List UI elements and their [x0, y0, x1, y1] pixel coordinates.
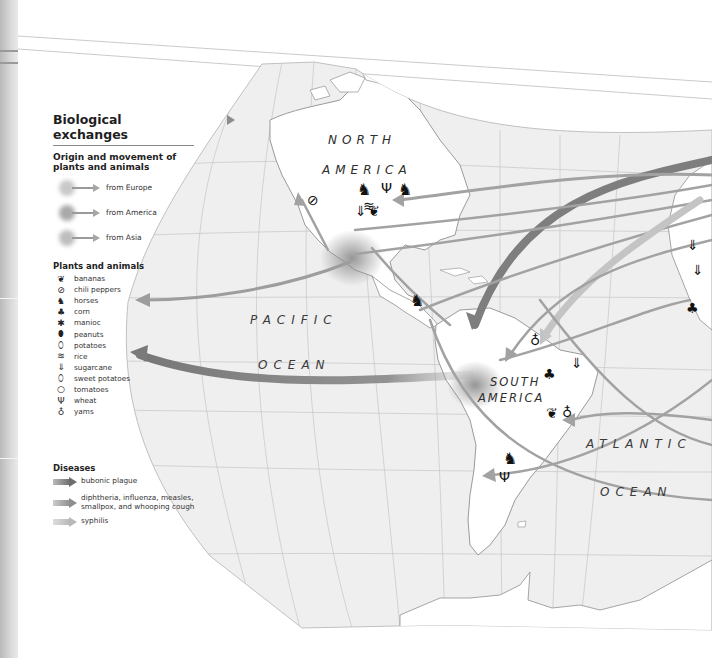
- disease-arrow-icon: [53, 478, 77, 486]
- yam-icon: ♁: [530, 333, 540, 347]
- horse-icon: ♞: [410, 294, 424, 308]
- rice-icon: ≋: [53, 351, 69, 361]
- legend-item: ⊘chili peppers: [53, 284, 130, 295]
- disease-entry-plague: bubonic plague: [53, 476, 137, 486]
- continent-label-north: NORTH: [328, 133, 396, 147]
- chili-pepper-icon: ⊘: [53, 285, 69, 295]
- ocean-label-pacific-ocean: OCEAN: [258, 358, 331, 372]
- origin-europe-entry: from Europe: [59, 175, 253, 200]
- legend-item: ⬮peanuts: [53, 328, 130, 339]
- wheat-icon: Ψ: [381, 181, 392, 195]
- wheat-icon: Ψ: [499, 470, 510, 484]
- arrow-icon: [72, 237, 94, 239]
- arrow-icon: [72, 187, 94, 189]
- yam-icon: ♁: [53, 407, 69, 417]
- horse-icon: ♞: [53, 296, 69, 306]
- legend-item: ○tomatoes: [53, 384, 130, 395]
- manioc-icon: ✱: [53, 318, 69, 328]
- horse-icon: ♞: [357, 183, 371, 197]
- legend-item: ⬯sweet potatoes: [53, 373, 130, 384]
- horse-icon: ♞: [503, 452, 517, 466]
- sugarcane-icon: ⇓: [692, 263, 704, 277]
- banana-icon: ❦: [546, 406, 558, 420]
- origin-heading: Origin and movement of plants and animal…: [53, 152, 183, 172]
- legend-item: ≋rice: [53, 351, 130, 362]
- legend-panel: Biological exchanges Origin and movement…: [53, 112, 253, 250]
- disease-entry-syphilis: syphilis: [53, 516, 108, 526]
- origin-label: from Asia: [106, 233, 142, 242]
- legend-item: ♣corn: [53, 306, 130, 317]
- legend-item: ♞horses: [53, 295, 130, 306]
- origin-label: from Europe: [106, 183, 152, 192]
- tomato-icon: ○: [53, 384, 69, 394]
- disease-arrow-icon: [53, 499, 77, 507]
- diseases-heading: Diseases: [53, 463, 95, 473]
- legend-item: ❦bananas: [53, 273, 130, 284]
- legend-item: ✱manioc: [53, 317, 130, 328]
- sugarcane-icon: ⇓: [687, 238, 699, 252]
- continent-label-south: SOUTH: [490, 375, 540, 389]
- continent-label-america: AMERICA: [322, 163, 412, 177]
- corn-icon: ♣: [686, 301, 699, 315]
- origin-blob-america: [320, 230, 384, 286]
- legend-item: ⬯potatoes: [53, 340, 130, 351]
- plants-animals-list: ❦bananas ⊘chili peppers ♞horses ♣corn ✱m…: [53, 273, 130, 417]
- triangle-pointer-icon: [227, 115, 235, 125]
- origin-asia-entry: from Asia: [59, 225, 253, 250]
- banana-icon: ❦: [53, 274, 69, 284]
- ocean-label-atlantic-ocean: OCEAN: [600, 485, 673, 499]
- peanut-icon: ⬮: [53, 329, 69, 339]
- rice-icon: ≋: [363, 199, 375, 213]
- potato-icon: ⬯: [53, 340, 69, 350]
- origin-label: from America: [106, 208, 157, 217]
- sweet-potato-icon: ⬯: [53, 373, 69, 383]
- corn-icon: ♣: [543, 367, 556, 381]
- horse-icon: ♞: [398, 183, 412, 197]
- legend-item: ⇓sugarcane: [53, 362, 130, 373]
- plants-animals-heading: Plants and animals: [53, 261, 144, 271]
- wheat-icon: Ψ: [53, 396, 69, 406]
- sugarcane-icon: ⇓: [571, 356, 583, 370]
- origin-america-entry: from America: [59, 200, 253, 225]
- continent-label-south-america: AMERICA: [478, 391, 544, 405]
- yam-icon: ♁: [562, 405, 572, 419]
- sugarcane-icon: ⇓: [53, 362, 69, 372]
- arrow-icon: [72, 212, 94, 214]
- legend-item: ♁yams: [53, 406, 130, 417]
- disease-entry-smallpox: diphtheria, influenza, measles, smallpox…: [53, 493, 233, 511]
- chili-pepper-icon: ⊘: [307, 193, 319, 207]
- ocean-label-pacific: PACIFIC: [250, 313, 338, 327]
- legend-title: Biological exchanges: [53, 112, 194, 146]
- legend-item: Ψwheat: [53, 395, 130, 406]
- corn-icon: ♣: [53, 307, 69, 317]
- falkland-islands: [518, 521, 526, 527]
- disease-arrow-icon: [53, 518, 77, 526]
- ocean-label-atlantic: ATLANTIC: [586, 437, 692, 451]
